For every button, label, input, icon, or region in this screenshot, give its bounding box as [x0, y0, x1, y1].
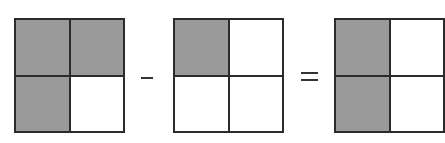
equals-operator-icon [301, 72, 318, 81]
grid-cell-empty [391, 20, 444, 75]
grid-cell-empty [71, 77, 124, 132]
grid-cell-shaded [336, 20, 389, 75]
equals-bar-top [301, 72, 318, 74]
grid-cell-shaded [16, 77, 69, 132]
minus-operator-icon [141, 77, 153, 79]
grid-cell-shaded [16, 20, 69, 75]
grid-cell-empty [391, 77, 444, 132]
grid-cell-empty [230, 77, 283, 132]
fraction-grid-three-quarters [14, 18, 125, 133]
grid-cell-empty [175, 77, 228, 132]
equals-bar-bottom [301, 79, 318, 81]
grid-cell-shaded [336, 77, 389, 132]
grid-cell-empty [230, 20, 283, 75]
fraction-grid-result-two-quarters [334, 18, 445, 133]
grid-cell-shaded [71, 20, 124, 75]
fraction-grid-one-quarter [173, 18, 284, 133]
grid-cell-shaded [175, 20, 228, 75]
